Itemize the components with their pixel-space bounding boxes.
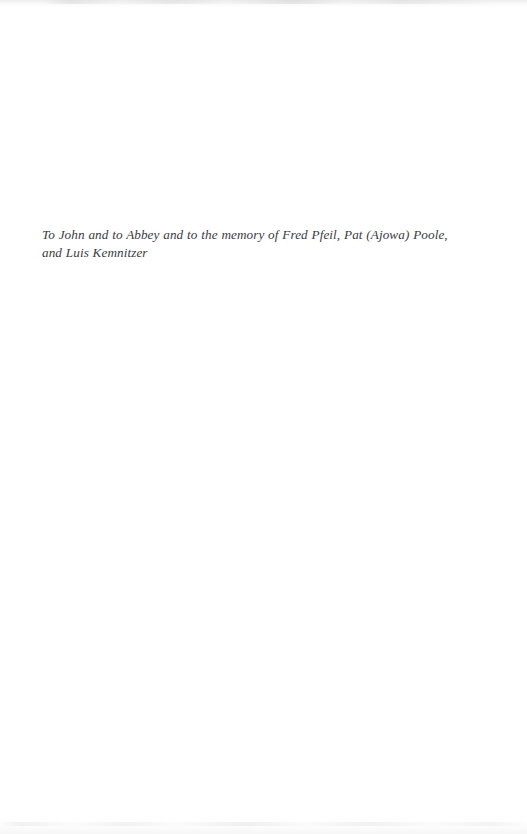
scan-edge-smudge-bottom	[0, 818, 527, 834]
document-page: To John and to Abbey and to the memory o…	[0, 0, 527, 834]
dedication-text: To John and to Abbey and to the memory o…	[42, 226, 460, 262]
scan-edge-smudge-top	[0, 0, 527, 7]
dedication-block: To John and to Abbey and to the memory o…	[42, 226, 460, 262]
